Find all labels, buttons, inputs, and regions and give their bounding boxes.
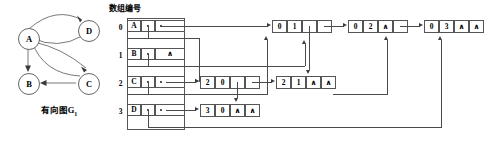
link-row3-firstin-down <box>148 110 149 127</box>
link-n21-area-to-n02-up <box>387 40 388 94</box>
link-row0-to-n01 <box>160 26 268 27</box>
row-index-1: 1 <box>116 51 125 60</box>
graph-node-c-label: C <box>86 79 92 89</box>
row-index-0: 0 <box>116 23 125 32</box>
graph-node-d-label: D <box>86 26 92 36</box>
row-index-2: 2 <box>116 79 125 88</box>
link-row0-to-n01-arrow <box>267 23 271 27</box>
arc-node-21-head: 1 <box>291 76 306 89</box>
link-n20-to-n21-arrow <box>271 79 275 83</box>
array-row-3-vertex: D <box>127 104 141 116</box>
link-row2-firstin-right <box>148 94 268 95</box>
array-row-1-vertex: B <box>127 48 141 60</box>
array-row-2-vertex: C <box>127 76 141 88</box>
row-index-3: 3 <box>116 107 125 116</box>
array-row-1-firstout: ∧ <box>155 48 185 60</box>
link-row3-firstin-arrow <box>438 36 442 40</box>
arc-node-03-tlink: ∧ <box>469 20 484 33</box>
link-row1-firstin-right <box>148 66 305 67</box>
link-row0-firstin-down <box>148 26 149 38</box>
graph-node-d: D <box>78 20 100 42</box>
link-n20-hlink-down <box>237 82 238 98</box>
arc-node-01-head: 1 <box>287 20 302 33</box>
link-row0-firstin-drop <box>199 38 200 82</box>
arc-node-21-tlink: ∧ <box>321 76 336 89</box>
arc-node-02-tail: 0 <box>348 20 363 33</box>
link-n20-to-n21 <box>252 82 272 83</box>
graph-node-b: B <box>18 73 40 95</box>
array-row-3-firstout-dot <box>160 109 162 111</box>
link-n21-area-to-n02-arrow <box>384 36 388 40</box>
arc-node-20-head: 0 <box>215 76 230 89</box>
arc-node-02-hlink: ∧ <box>378 20 393 33</box>
link-row3-to-n30-arrow <box>195 107 199 111</box>
graph-node-c: C <box>78 73 100 95</box>
arc-node-03-hlink: ∧ <box>454 20 469 33</box>
graph-node-b-label: B <box>26 79 32 89</box>
link-n02-to-n03-arrow <box>419 23 423 27</box>
array-row-0-vertex: A <box>127 20 141 32</box>
link-n01-to-n02-arrow <box>343 23 347 27</box>
arc-node-21-tail: 2 <box>276 76 291 89</box>
link-row2-firstin-down <box>148 82 149 94</box>
link-n21-area-to-n02 <box>333 94 388 95</box>
link-row1-firstin-arrow <box>302 40 306 44</box>
link-row3-firstin-up <box>441 40 442 127</box>
arc-node-02-head: 2 <box>363 20 378 33</box>
arc-node-30-hlink: ∧ <box>230 104 245 117</box>
graph-caption-text: 有向图G <box>41 105 75 115</box>
link-row3-to-n30 <box>166 110 196 111</box>
arc-node-01-tail: 0 <box>272 20 287 33</box>
link-n20-hlink-arrow <box>234 98 238 102</box>
link-row2-to-n20-arrow <box>195 79 199 83</box>
array-header-label: 数组编号 <box>109 2 141 13</box>
link-row1-firstin-up <box>305 44 306 66</box>
link-row1-firstin-down <box>148 54 149 66</box>
link-n02-to-n03 <box>400 26 420 27</box>
graph-caption-subscript: 1 <box>74 111 77 117</box>
link-row2-to-n20 <box>166 82 196 83</box>
link-row2-firstin-arrow <box>264 36 268 40</box>
link-n01-hlink-arrow <box>306 70 310 74</box>
arc-node-30-tail: 3 <box>200 104 215 117</box>
graph-node-a-label: A <box>26 34 32 44</box>
arc-node-30-tlink: ∧ <box>245 104 260 117</box>
link-row0-firstin-right <box>148 38 200 39</box>
graph-edges <box>0 0 118 105</box>
link-row2-firstin-up <box>267 40 268 94</box>
link-row3-firstin-right <box>148 127 442 128</box>
link-n01-to-n02 <box>324 26 344 27</box>
arc-node-20-tail: 2 <box>200 76 215 89</box>
array-row-2-firstout-dot <box>160 81 162 83</box>
arc-node-03-tail: 0 <box>424 20 439 33</box>
arc-node-30-head: 0 <box>215 104 230 117</box>
directed-graph-panel: A D B C 有向图G1 <box>0 0 118 142</box>
orthogonal-list-figure: A D B C 有向图G1 数组编号 0 1 2 3 A B ∧ C D 0 1… <box>0 0 491 142</box>
graph-caption: 有向图G1 <box>0 103 118 117</box>
graph-node-a: A <box>18 28 40 50</box>
arc-node-21-hlink: ∧ <box>306 76 321 89</box>
link-n01-hlink-down <box>309 26 310 70</box>
arc-node-03-head: 3 <box>439 20 454 33</box>
